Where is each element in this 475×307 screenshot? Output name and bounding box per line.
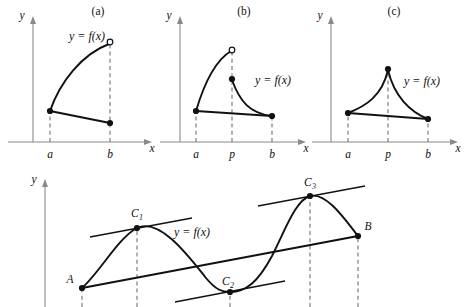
panel-a-y-axis-arrow	[30, 16, 36, 24]
panel-b-curve-left	[196, 51, 231, 111]
bottom-y-label: y	[30, 173, 37, 186]
panel-b-tick-p: p	[228, 148, 235, 161]
panel-a-curve	[50, 44, 109, 111]
bottom-point-C3	[307, 193, 313, 199]
panel-a-point-a	[47, 108, 53, 114]
panel-a-tick-b: b	[107, 148, 113, 160]
panel-a: y x (a) y = f(x) a b	[8, 5, 155, 160]
panel-c-function-label: y = f(x)	[403, 74, 440, 88]
panel-b-x-label: x	[302, 142, 309, 154]
bottom-label-C2-group: C 2	[222, 275, 234, 290]
panel-b-y-axis-arrow	[177, 16, 183, 24]
panel-b-function-label: y = f(x)	[254, 73, 291, 87]
panel-c-point-a	[345, 110, 351, 116]
panel-b-y-label: y	[165, 9, 172, 22]
bottom-label-C2-sub: 2	[230, 281, 234, 290]
panel-a-open-point-b	[107, 39, 113, 45]
panel-c: y x (c) y = f(x) a p b	[312, 5, 461, 161]
bottom-label-A: A	[65, 273, 74, 285]
bottom-label-C3-group: C 3	[304, 176, 316, 191]
panel-bottom: y y = f(x) A C 1 C 2 C 3 B	[30, 173, 371, 307]
panel-c-point-p	[385, 66, 391, 72]
panel-b-point-a	[193, 108, 199, 114]
panel-c-tick-p: p	[384, 148, 391, 161]
bottom-point-C1	[134, 225, 140, 231]
bottom-label-C1-sub: 1	[139, 213, 143, 222]
panel-c-point-b	[425, 116, 431, 122]
bottom-label-C2: C	[222, 275, 230, 287]
panel-c-tick-a: a	[345, 148, 351, 160]
bottom-point-B	[355, 233, 361, 239]
panel-b-caption: (b)	[237, 5, 251, 18]
panel-b-tick-b: b	[269, 148, 275, 160]
panel-c-y-label: y	[316, 9, 323, 22]
panel-c-x-label: x	[454, 142, 461, 154]
panel-c-tick-b: b	[425, 148, 431, 160]
bottom-label-C1: C	[131, 207, 139, 219]
bottom-y-axis-arrow	[42, 179, 48, 187]
panel-a-function-label: y = f(x)	[68, 29, 105, 43]
bottom-label-C1-group: C 1	[131, 207, 143, 222]
bottom-label-C3-sub: 3	[311, 182, 316, 191]
figure-root: y x (a) y = f(x) a b y x (b) y = f(x) a …	[0, 0, 475, 307]
bottom-point-A	[79, 285, 85, 291]
panel-c-curve-left	[348, 70, 388, 113]
panel-a-y-label: y	[18, 9, 25, 22]
panel-c-y-axis-arrow	[328, 16, 334, 24]
panel-b-open-point-p	[229, 47, 235, 53]
bottom-function-label: y = f(x)	[173, 225, 210, 239]
panel-b: y x (b) y = f(x) a p b	[160, 5, 309, 161]
panel-b-point-b	[269, 113, 275, 119]
panel-c-caption: (c)	[388, 5, 401, 18]
panel-a-caption: (a)	[92, 5, 105, 18]
bottom-label-B: B	[364, 220, 371, 232]
mvt-figure-svg: y x (a) y = f(x) a b y x (b) y = f(x) a …	[0, 0, 475, 307]
panel-b-tick-a: a	[193, 148, 199, 160]
bottom-label-C3: C	[304, 176, 312, 188]
panel-a-tick-a: a	[47, 148, 53, 160]
panel-a-chord	[50, 111, 110, 123]
panel-b-point-p	[229, 76, 235, 82]
panel-a-x-label: x	[148, 142, 155, 154]
panel-a-point-b	[107, 120, 113, 126]
bottom-chord-AB	[82, 236, 358, 288]
